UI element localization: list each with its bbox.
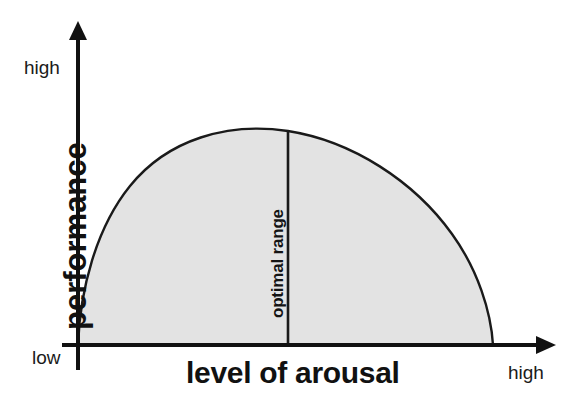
optimal-range-label: optimal range <box>268 209 288 318</box>
y-axis-low-label: low <box>32 348 61 367</box>
yerkes-dodson-chart: high low high level of arousal performan… <box>0 0 581 418</box>
y-axis-high-label: high <box>24 58 60 77</box>
x-axis-high-label: high <box>508 363 544 382</box>
x-axis-arrowhead <box>536 336 556 354</box>
x-axis-title: level of arousal <box>186 358 400 388</box>
y-axis-arrowhead <box>69 21 87 40</box>
y-axis-title: performance <box>58 142 94 330</box>
